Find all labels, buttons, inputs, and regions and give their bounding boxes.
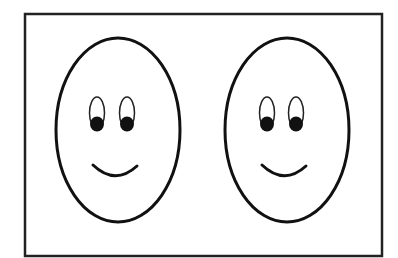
pupil <box>260 117 274 132</box>
pupil <box>90 117 104 132</box>
frame-border <box>25 14 382 256</box>
left-eye <box>90 97 105 132</box>
right-eye <box>289 97 304 132</box>
left-eye <box>260 97 275 132</box>
pupil <box>120 117 134 132</box>
right-eye <box>120 97 135 132</box>
pupil <box>289 117 303 132</box>
figure-canvas <box>0 0 398 258</box>
